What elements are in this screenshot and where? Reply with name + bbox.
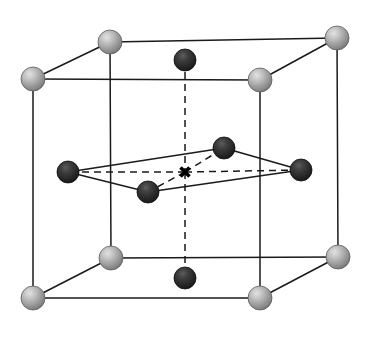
rhombus-left-back <box>68 148 224 172</box>
corner-bottom-front-right-sphere <box>248 286 272 310</box>
edge-bottom-back <box>111 257 338 258</box>
crystal-structure-figure <box>0 0 370 337</box>
corner-bottom-front-left-sphere <box>21 286 45 310</box>
face-top-center-sphere <box>174 49 196 71</box>
rhombus-front-left <box>68 172 148 192</box>
edge-bottom-right-diag <box>260 257 338 298</box>
mid-back-sphere <box>213 137 235 159</box>
edge-top-right-diag <box>260 38 337 80</box>
mid-right-sphere <box>290 159 312 181</box>
edge-top-front <box>33 79 260 80</box>
edge-vert-back-right <box>337 38 338 257</box>
rhombus-right-front <box>148 170 301 192</box>
corner-bottom-back-left-sphere <box>99 246 123 270</box>
corner-top-back-left-sphere <box>98 30 122 54</box>
dashed-bond-edges-group <box>68 60 301 278</box>
edge-top-back <box>110 38 337 42</box>
dash-center-to-right <box>185 170 301 172</box>
corner-top-back-right-sphere <box>325 26 349 50</box>
edge-top-left-diag <box>33 42 110 79</box>
face-bottom-center-sphere <box>174 267 196 289</box>
mid-front-sphere <box>137 181 159 203</box>
rhombus-back-right <box>224 148 301 170</box>
edge-bottom-left-diag <box>33 258 111 298</box>
corner-bottom-back-right-sphere <box>326 245 350 269</box>
crystal-structure-svg <box>0 0 370 337</box>
corner-top-front-left-sphere <box>21 67 45 91</box>
mid-left-sphere <box>57 161 79 183</box>
corner-top-front-right-sphere <box>248 68 272 92</box>
edge-vert-back-left <box>110 42 111 258</box>
